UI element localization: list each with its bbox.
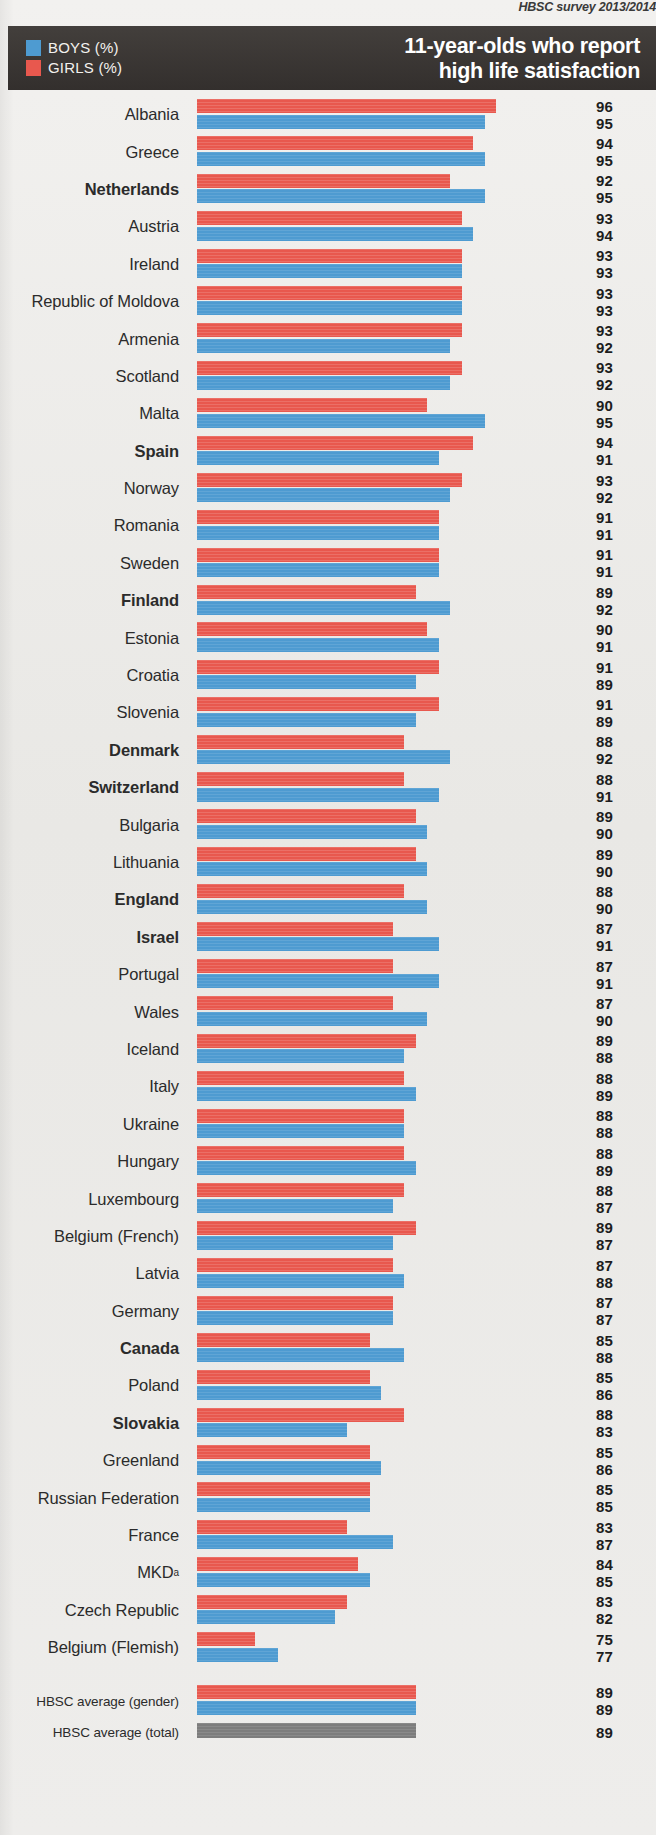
value-boys: 86 bbox=[596, 1386, 613, 1403]
bar-group bbox=[197, 660, 439, 691]
country-row: Sweden9191 bbox=[0, 545, 656, 582]
value-girls: 89 bbox=[596, 1219, 613, 1236]
bar-group bbox=[197, 323, 462, 354]
country-row: Poland8586 bbox=[0, 1367, 656, 1404]
country-label: Belgium (Flemish) bbox=[0, 1629, 188, 1666]
value-girls: 91 bbox=[596, 546, 613, 563]
value-boys: 85 bbox=[596, 1498, 613, 1515]
country-row: Netherlands9295 bbox=[0, 171, 656, 208]
value-girls: 88 bbox=[596, 1182, 613, 1199]
value-labels: 9191 bbox=[596, 507, 642, 544]
value-girls: 93 bbox=[596, 322, 613, 339]
source-note: HBSC survey 2013/2014 bbox=[356, 0, 656, 15]
value-boys: 92 bbox=[596, 489, 613, 506]
country-label: Croatia bbox=[0, 657, 188, 694]
country-row: Republic of Moldova9393 bbox=[0, 283, 656, 320]
country-row: Greenland8586 bbox=[0, 1442, 656, 1479]
bar-girls bbox=[197, 1520, 347, 1534]
country-row: Canada8588 bbox=[0, 1330, 656, 1367]
bar-boys bbox=[197, 1610, 335, 1624]
value-boys: 87 bbox=[596, 1311, 613, 1328]
bar-boys bbox=[197, 1274, 404, 1288]
value-labels: 9394 bbox=[596, 208, 642, 245]
chart-header: BOYS (%) GIRLS (%) 11-year-olds who repo… bbox=[8, 26, 656, 90]
bar-group bbox=[197, 809, 427, 840]
bar-girls bbox=[197, 1146, 404, 1160]
bar-boys bbox=[197, 601, 450, 615]
value-labels: 8787 bbox=[596, 1293, 642, 1330]
bar-boys bbox=[197, 152, 485, 166]
page-title-line-1: 11-year-olds who report bbox=[404, 34, 640, 59]
value-boys: 93 bbox=[596, 302, 613, 319]
country-row: Slovakia8883 bbox=[0, 1405, 656, 1442]
value-boys: 89 bbox=[596, 1087, 613, 1104]
country-row: Scotland9392 bbox=[0, 358, 656, 395]
country-row: Russian Federation8585 bbox=[0, 1479, 656, 1516]
bar-girls bbox=[197, 585, 416, 599]
country-row: Malta9095 bbox=[0, 395, 656, 432]
country-row: Germany8787 bbox=[0, 1293, 656, 1330]
country-label: Romania bbox=[0, 507, 188, 544]
value-boys: 87 bbox=[596, 1536, 613, 1553]
country-label: Iceland bbox=[0, 1031, 188, 1068]
value-girls: 90 bbox=[596, 621, 613, 638]
bar-girls bbox=[197, 622, 427, 636]
page-title-line-2: high life satisfaction bbox=[404, 59, 640, 84]
bar-girls bbox=[197, 1333, 370, 1347]
bar-girls bbox=[197, 922, 393, 936]
value-labels: 8889 bbox=[596, 1143, 642, 1180]
value-boys: 88 bbox=[596, 1124, 613, 1141]
value-boys: 91 bbox=[596, 563, 613, 580]
bar-group bbox=[197, 1482, 370, 1513]
country-label: Italy bbox=[0, 1068, 188, 1105]
value-girls: 91 bbox=[596, 696, 613, 713]
bar-group bbox=[197, 174, 485, 205]
bar-boys bbox=[197, 301, 462, 315]
country-label: Austria bbox=[0, 208, 188, 245]
bar-boys bbox=[197, 788, 439, 802]
value-boys: 83 bbox=[596, 1423, 613, 1440]
country-row: Czech Republic8382 bbox=[0, 1592, 656, 1629]
bar-group bbox=[197, 136, 485, 167]
bar-group bbox=[197, 1557, 370, 1588]
country-row: Denmark8892 bbox=[0, 732, 656, 769]
country-row: Finland8992 bbox=[0, 582, 656, 619]
value-boys: 91 bbox=[596, 451, 613, 468]
country-row: Greece9495 bbox=[0, 133, 656, 170]
bar-girls bbox=[197, 436, 473, 450]
value-labels: 9491 bbox=[596, 433, 642, 470]
value-girls: 85 bbox=[596, 1369, 613, 1386]
value-boys: 93 bbox=[596, 264, 613, 281]
country-label: Belgium (French) bbox=[0, 1218, 188, 1255]
bar-group bbox=[197, 847, 427, 878]
value-labels: 7577 bbox=[596, 1629, 642, 1666]
bar-group bbox=[197, 1595, 347, 1626]
country-row: Slovenia9189 bbox=[0, 694, 656, 731]
value-boys: 87 bbox=[596, 1199, 613, 1216]
bar-group bbox=[197, 99, 496, 130]
value-labels: 9393 bbox=[596, 283, 642, 320]
bar-boys bbox=[197, 638, 439, 652]
bar-boys bbox=[197, 414, 485, 428]
country-label: Slovenia bbox=[0, 694, 188, 731]
country-label: France bbox=[0, 1517, 188, 1554]
value-girls: 88 bbox=[596, 1145, 613, 1162]
value-boys: 94 bbox=[596, 227, 613, 244]
country-row: Norway9392 bbox=[0, 470, 656, 507]
bar-boys bbox=[197, 900, 427, 914]
value-girls: 93 bbox=[596, 359, 613, 376]
country-row: Spain9491 bbox=[0, 433, 656, 470]
bar-girls bbox=[197, 1034, 416, 1048]
value-girls: 88 bbox=[596, 1406, 613, 1423]
country-row: Austria9394 bbox=[0, 208, 656, 245]
country-label: Netherlands bbox=[0, 171, 188, 208]
bar-boys bbox=[197, 1161, 416, 1175]
country-label: Armenia bbox=[0, 320, 188, 357]
value-boys: 91 bbox=[596, 937, 613, 954]
country-row: Wales8790 bbox=[0, 993, 656, 1030]
bar-group bbox=[197, 1408, 404, 1439]
bar-group bbox=[197, 1146, 416, 1177]
value-labels: 8790 bbox=[596, 993, 642, 1030]
bar-group bbox=[197, 996, 427, 1027]
country-label: Norway bbox=[0, 470, 188, 507]
